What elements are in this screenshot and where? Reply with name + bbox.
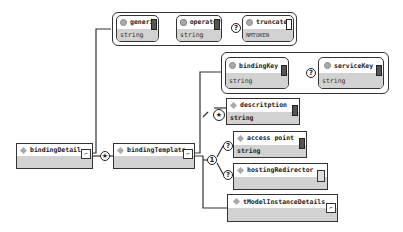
element-icon bbox=[117, 146, 124, 153]
attribute-icon bbox=[324, 62, 331, 69]
attribute-name: serviceKey bbox=[334, 62, 373, 70]
schema-diagram: generic string operator string ? truncat… bbox=[0, 0, 403, 232]
optional-badge: ? bbox=[306, 68, 316, 78]
attribute-type: string bbox=[177, 29, 221, 42]
details-tab-icon[interactable] bbox=[286, 19, 292, 30]
attribute-icon bbox=[246, 19, 253, 26]
attribute-serviceKey[interactable]: serviceKey string bbox=[318, 57, 384, 89]
element-name: bindingDetail bbox=[30, 146, 81, 154]
element-icon bbox=[20, 146, 27, 153]
attribute-operator[interactable]: operator string bbox=[176, 15, 222, 42]
optional-badge: ? bbox=[223, 141, 233, 151]
expand-icon[interactable]: ⌐ bbox=[183, 149, 193, 159]
element-descritption[interactable]: descritption string bbox=[226, 98, 300, 125]
element-name: access point bbox=[247, 134, 294, 142]
attribute-icon bbox=[180, 19, 187, 26]
expand-icon[interactable]: ⌐ bbox=[81, 149, 91, 159]
details-tab-icon[interactable] bbox=[281, 65, 287, 76]
element-access-point[interactable]: access point string bbox=[233, 131, 307, 158]
details-tab-icon[interactable] bbox=[317, 170, 325, 182]
details-tab-icon[interactable] bbox=[292, 105, 298, 116]
many-cardinality-badge: ★ bbox=[100, 151, 110, 161]
attribute-type: NMTOKEN bbox=[243, 29, 293, 42]
attribute-type: string bbox=[319, 73, 383, 88]
attribute-generic[interactable]: generic string bbox=[116, 15, 159, 42]
element-type: string bbox=[227, 112, 299, 125]
expand-icon[interactable]: ⌐ bbox=[326, 203, 336, 213]
attribute-type: string bbox=[226, 73, 288, 88]
element-icon bbox=[237, 167, 244, 174]
element-bindingTemplate[interactable]: bindingTemplate ⌐ bbox=[113, 143, 195, 169]
element-tModelInstanceDetails[interactable]: tModelInstanceDetails ⌐ bbox=[227, 194, 338, 222]
element-icon bbox=[230, 102, 237, 109]
attribute-name: bindingKey bbox=[239, 62, 278, 70]
element-name: hostingRedirector bbox=[247, 166, 314, 174]
optional-badge: ? bbox=[231, 23, 241, 33]
optional-badge: ? bbox=[223, 170, 233, 180]
element-name: bindingTemplate bbox=[127, 146, 186, 154]
details-tab-icon[interactable] bbox=[214, 19, 220, 30]
details-tab-icon[interactable] bbox=[376, 65, 382, 76]
attribute-icon bbox=[120, 19, 127, 26]
attribute-type: string bbox=[117, 29, 158, 42]
element-name: descritption bbox=[240, 101, 287, 109]
element-bindingDetail[interactable]: bindingDetail ⌐ bbox=[16, 143, 93, 169]
attribute-bindingKey[interactable]: bindingKey string bbox=[225, 57, 289, 89]
attribute-truncated[interactable]: truncated NMTOKEN bbox=[242, 15, 294, 42]
details-tab-icon[interactable] bbox=[151, 19, 157, 30]
many-cardinality-badge: ★ bbox=[213, 109, 225, 121]
attribute-icon bbox=[229, 62, 236, 69]
element-icon bbox=[233, 198, 240, 205]
element-icon bbox=[237, 135, 244, 142]
details-tab-icon[interactable] bbox=[299, 138, 305, 149]
element-type: string bbox=[234, 145, 306, 158]
element-name: tModelInstanceDetails bbox=[243, 198, 325, 206]
element-hostingRedirector[interactable]: hostingRedirector bbox=[233, 163, 328, 190]
choice-badge: 1 bbox=[207, 155, 217, 165]
